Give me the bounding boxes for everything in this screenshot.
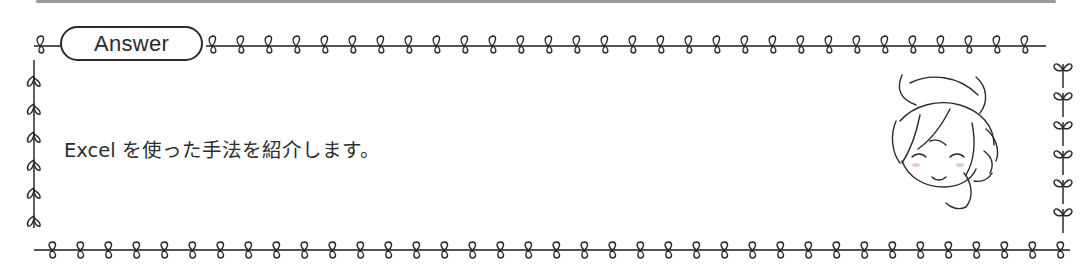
answer-body-text: Excel を使った手法を紹介します。 xyxy=(64,134,380,163)
answer-label-text: Answer xyxy=(94,31,169,57)
top-rule-divider xyxy=(36,0,1056,3)
left-vine-border-icon xyxy=(22,60,48,240)
bottom-vine-border-icon xyxy=(34,238,1074,266)
answer-label-tag: Answer xyxy=(60,26,203,61)
right-vine-border-icon xyxy=(1050,58,1076,238)
smiling-chibi-character-icon xyxy=(880,65,1020,215)
